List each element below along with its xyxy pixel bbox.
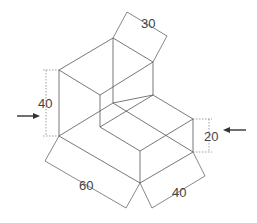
step-front-edge xyxy=(140,119,193,151)
block-edges xyxy=(59,38,193,183)
dim-label-20: 20 xyxy=(204,129,218,144)
top-face xyxy=(59,38,153,95)
dimension-40-width: 40 xyxy=(140,152,205,208)
dim-label-30: 30 xyxy=(141,16,155,31)
dimension-40-height: 40 xyxy=(38,70,59,136)
step-right-top-edge xyxy=(153,95,193,119)
dim-label-40-height: 40 xyxy=(38,96,52,111)
isometric-drawing: 30 40 20 60 40 xyxy=(0,0,257,223)
dim-label-60: 60 xyxy=(79,178,93,193)
step-front-top-edge xyxy=(100,127,140,151)
bottom-back-edge xyxy=(59,103,113,136)
inner-diagonal-edge xyxy=(113,103,193,152)
bottom-right-edge xyxy=(140,152,193,183)
dimension-60: 60 xyxy=(45,136,140,208)
dim-label-40-width: 40 xyxy=(172,185,186,200)
view-arrow-left-side xyxy=(17,113,40,119)
dimension-20: 20 xyxy=(193,119,218,152)
view-arrow-right-side xyxy=(223,127,246,133)
